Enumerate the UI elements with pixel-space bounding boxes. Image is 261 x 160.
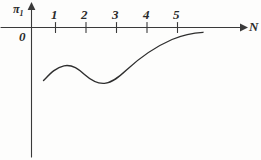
- y-axis-label: π1: [13, 3, 24, 18]
- graph-figure: π1 0 N 1 2 3 4 5: [0, 0, 261, 160]
- curve-pi1: [44, 32, 204, 83]
- y-axis-arrow-icon: [28, 2, 36, 10]
- y-axis-label-subscript: 1: [20, 9, 24, 18]
- x-tick-label-5: 5: [173, 8, 180, 21]
- x-tick-label-4: 4: [143, 8, 150, 21]
- x-tick-label-3: 3: [112, 8, 119, 21]
- graph-canvas: [0, 0, 261, 160]
- x-axis-label: N: [249, 20, 258, 33]
- x-axis-arrow-icon: [240, 24, 248, 32]
- x-tick-label-1: 1: [51, 8, 58, 21]
- x-tick-label-2: 2: [81, 8, 88, 21]
- origin-label: 0: [19, 30, 26, 43]
